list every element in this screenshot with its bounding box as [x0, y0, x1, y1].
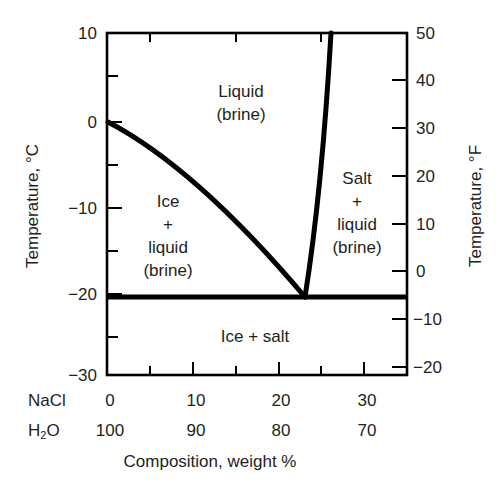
region-liquid-line-1: Liquid: [216, 80, 265, 103]
phase-diagram-figure: 10 0 −10 −20 −30 50 40 30 20 10 0 −10 −2…: [0, 0, 503, 500]
right-tick-label-0: 0: [416, 263, 425, 280]
left-tick-label-0: 0: [52, 114, 97, 131]
h2o-tick-100: 100: [96, 422, 124, 439]
nacl-tick-20: 20: [272, 392, 291, 409]
h2o-h: H: [28, 421, 40, 440]
left-tick-label-minus30: −30: [44, 367, 97, 384]
right-tick-label-50: 50: [416, 25, 435, 42]
region-salt-liquid-line-4: (brine): [332, 236, 381, 259]
x-axis-title: Composition, weight %: [0, 452, 420, 472]
right-tick-label-30: 30: [416, 120, 435, 137]
region-label-salt-plus-liquid: Salt + liquid (brine): [332, 167, 381, 259]
left-tick-label-minus20: −20: [44, 286, 97, 303]
region-liquid-line-2: (brine): [216, 103, 265, 126]
region-label-liquid: Liquid (brine): [216, 80, 265, 126]
left-axis-title: Temperature, °C: [23, 126, 43, 286]
region-ice-liquid-line-3: liquid: [143, 236, 192, 259]
region-salt-liquid-line-1: Salt: [332, 167, 381, 190]
right-tick-label-minus10: −10: [413, 311, 442, 328]
h2o-subscript: 2: [40, 429, 46, 441]
left-tick-label-minus10: −10: [44, 200, 97, 217]
region-ice-salt-line-1: Ice + salt: [221, 325, 290, 348]
region-salt-liquid-line-3: liquid: [332, 213, 381, 236]
region-ice-liquid-line-4: (brine): [143, 259, 192, 282]
right-tick-label-20: 20: [416, 168, 435, 185]
h2o-tick-80: 80: [272, 422, 291, 439]
right-tick-label-minus20: −20: [413, 359, 442, 376]
left-tick-label-10: 10: [52, 25, 97, 42]
h2o-tick-90: 90: [187, 422, 206, 439]
nacl-tick-30: 30: [358, 392, 377, 409]
region-ice-liquid-line-2: +: [143, 213, 192, 236]
h2o-tick-70: 70: [358, 422, 377, 439]
region-ice-liquid-line-1: Ice: [143, 190, 192, 213]
right-axis-title: Temperature, °F: [466, 126, 486, 286]
region-salt-liquid-line-2: +: [332, 190, 381, 213]
row-label-h2o: H2O: [28, 422, 60, 439]
region-label-ice-plus-salt: Ice + salt: [221, 325, 290, 348]
h2o-o: O: [46, 421, 59, 440]
right-tick-label-10: 10: [416, 216, 435, 233]
row-label-nacl: NaCl: [28, 392, 66, 409]
nacl-tick-0: 0: [105, 392, 114, 409]
nacl-tick-10: 10: [187, 392, 206, 409]
region-label-ice-plus-liquid: Ice + liquid (brine): [143, 190, 192, 282]
right-tick-label-40: 40: [416, 72, 435, 89]
